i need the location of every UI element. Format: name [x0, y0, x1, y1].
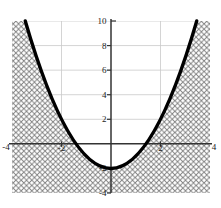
- y-tick-label: -4: [99, 188, 107, 198]
- y-tick-label: 2: [102, 114, 107, 124]
- y-tick-label: 8: [102, 41, 107, 51]
- x-tick-label: 4: [212, 142, 217, 152]
- graph-figure: -4-224-4-2246810: [0, 0, 221, 208]
- y-tick-label: 6: [102, 65, 107, 75]
- parabola-graph-svg: -4-224-4-2246810: [0, 0, 221, 208]
- y-tick-label: 10: [98, 16, 108, 26]
- x-tick-label: -2: [58, 143, 66, 153]
- y-tick-label: 4: [102, 90, 107, 100]
- x-tick-label: -4: [2, 142, 10, 152]
- x-tick-label: 2: [158, 143, 163, 153]
